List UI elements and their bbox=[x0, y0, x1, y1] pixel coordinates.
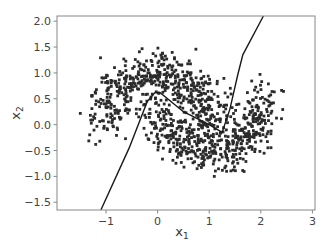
data-point bbox=[135, 85, 138, 88]
data-point bbox=[159, 140, 162, 143]
data-point bbox=[143, 127, 146, 130]
data-point bbox=[110, 85, 113, 88]
data-point bbox=[216, 82, 219, 85]
data-point bbox=[176, 93, 179, 96]
data-point bbox=[202, 92, 205, 95]
data-point bbox=[163, 103, 166, 106]
data-point bbox=[225, 139, 228, 142]
data-point bbox=[177, 90, 180, 93]
data-point bbox=[270, 112, 273, 115]
data-point bbox=[129, 78, 132, 81]
data-point bbox=[119, 87, 122, 90]
data-point bbox=[203, 158, 206, 161]
data-point bbox=[213, 149, 216, 152]
data-point bbox=[79, 112, 82, 115]
data-point bbox=[107, 121, 110, 124]
data-point bbox=[180, 94, 183, 97]
data-point bbox=[236, 162, 239, 165]
data-point bbox=[213, 158, 216, 161]
data-point bbox=[204, 81, 207, 84]
data-point bbox=[192, 161, 195, 164]
data-point bbox=[106, 96, 109, 99]
data-point bbox=[129, 99, 132, 102]
data-point bbox=[178, 81, 181, 84]
data-point bbox=[105, 103, 108, 106]
data-point bbox=[213, 175, 216, 178]
data-point bbox=[93, 129, 96, 132]
data-point bbox=[214, 170, 217, 173]
data-point bbox=[260, 140, 263, 143]
data-point bbox=[237, 137, 240, 140]
data-point bbox=[196, 167, 199, 170]
data-point bbox=[260, 128, 263, 131]
data-point bbox=[231, 156, 234, 159]
data-point bbox=[137, 70, 140, 73]
data-point bbox=[214, 152, 217, 155]
scatter-chart: −10123 −1.5−1.0−0.50.00.51.01.52.0 x1 x2 bbox=[0, 0, 333, 249]
data-point bbox=[256, 91, 259, 94]
data-point bbox=[167, 109, 170, 112]
data-point bbox=[233, 118, 236, 121]
data-point bbox=[271, 90, 274, 93]
data-point bbox=[259, 150, 262, 153]
data-point bbox=[203, 139, 206, 142]
data-point bbox=[124, 80, 127, 83]
data-point bbox=[105, 106, 108, 109]
data-point bbox=[210, 90, 213, 93]
data-point bbox=[148, 116, 151, 119]
data-point bbox=[179, 142, 182, 145]
data-point bbox=[214, 146, 217, 149]
data-point bbox=[161, 108, 164, 111]
data-point bbox=[252, 134, 255, 137]
data-point bbox=[205, 112, 208, 115]
scatter-points bbox=[79, 47, 285, 178]
data-point bbox=[97, 100, 100, 103]
data-point bbox=[125, 69, 128, 72]
data-point bbox=[208, 141, 211, 144]
data-point bbox=[149, 108, 152, 111]
data-point bbox=[268, 95, 271, 98]
data-point bbox=[193, 85, 196, 88]
data-point bbox=[263, 115, 266, 118]
x-tick-label: 3 bbox=[309, 215, 316, 228]
data-point bbox=[234, 169, 237, 172]
data-point bbox=[140, 85, 143, 88]
data-point bbox=[257, 106, 260, 109]
data-point bbox=[257, 109, 260, 112]
data-point bbox=[253, 89, 256, 92]
data-point bbox=[140, 100, 143, 103]
data-point bbox=[99, 56, 102, 59]
data-point bbox=[164, 87, 167, 90]
data-point bbox=[190, 136, 193, 139]
data-point bbox=[192, 150, 195, 153]
data-point bbox=[234, 136, 237, 139]
data-point bbox=[169, 148, 172, 151]
data-point bbox=[170, 130, 173, 133]
data-point bbox=[186, 131, 189, 134]
data-point bbox=[191, 145, 194, 148]
data-point bbox=[187, 157, 190, 160]
data-point bbox=[260, 111, 263, 114]
data-point bbox=[164, 55, 167, 58]
data-point bbox=[227, 159, 230, 162]
data-point bbox=[208, 156, 211, 159]
data-point bbox=[232, 135, 235, 138]
data-point bbox=[157, 47, 160, 50]
data-point bbox=[144, 93, 147, 96]
data-point bbox=[206, 133, 209, 136]
data-point bbox=[186, 89, 189, 92]
data-point bbox=[176, 144, 179, 147]
data-point bbox=[166, 71, 169, 74]
data-point bbox=[213, 93, 216, 96]
data-point bbox=[218, 159, 221, 162]
data-point bbox=[197, 164, 200, 167]
data-point bbox=[118, 92, 121, 95]
data-point bbox=[198, 124, 201, 127]
data-point bbox=[231, 162, 234, 165]
data-point bbox=[184, 119, 187, 122]
data-point bbox=[225, 104, 228, 107]
data-point bbox=[195, 76, 198, 79]
data-point bbox=[232, 139, 235, 142]
y-tick-label: −1.0 bbox=[24, 170, 51, 183]
data-point bbox=[217, 101, 220, 104]
